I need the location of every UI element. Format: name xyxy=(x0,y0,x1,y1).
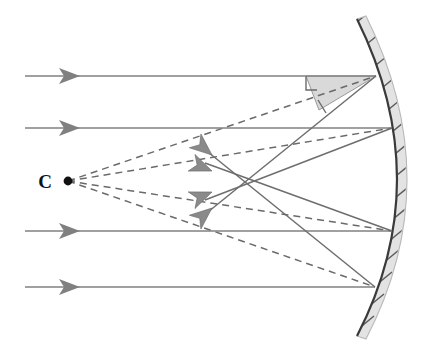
normal-lines-group xyxy=(68,76,392,287)
normal-line-3 xyxy=(68,181,392,231)
reflected-ray-1 xyxy=(203,76,376,216)
center-of-curvature-group: C xyxy=(38,171,72,192)
reflected-rays-group xyxy=(203,76,392,287)
focus-arrowheads-group xyxy=(188,134,218,229)
angle-of-incidence-marker xyxy=(306,76,376,113)
normal-line-4 xyxy=(68,181,375,287)
center-of-curvature-dot xyxy=(64,177,73,186)
mirror-body-shading xyxy=(357,16,407,339)
incident-rays-group xyxy=(25,68,392,295)
reflected-ray-4 xyxy=(203,148,375,287)
normal-line-2 xyxy=(68,128,392,181)
optics-diagram-root: C xyxy=(0,0,434,354)
center-of-curvature-label: C xyxy=(38,171,52,192)
mirror-group xyxy=(352,8,413,339)
focus-arrowhead-3 xyxy=(188,184,215,209)
mirror-reflective-surface xyxy=(357,19,397,336)
spherical-aberration-diagram: C xyxy=(0,0,434,354)
